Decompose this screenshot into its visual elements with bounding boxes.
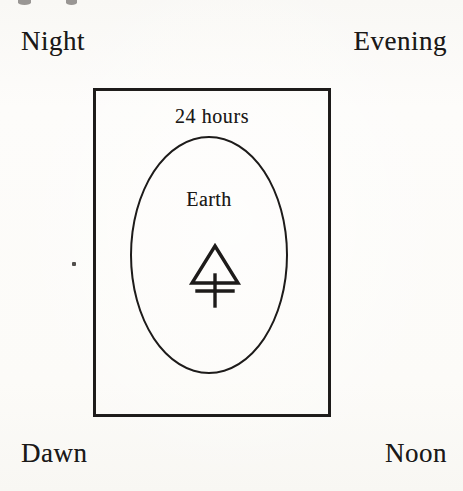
diagram-page: Night Evening Dawn Noon 24 hours Earth [0, 0, 463, 491]
period-label-24-hours: 24 hours [93, 106, 331, 126]
corner-label-night: Night [21, 28, 85, 55]
page-top-cut-artifact-b [66, 0, 77, 5]
page-top-cut-artifact-a [18, 0, 31, 5]
earth-symbol-icon [186, 241, 244, 309]
ink-speck-artifact [72, 262, 76, 266]
corner-label-noon: Noon [385, 440, 447, 467]
corner-label-evening: Evening [354, 28, 447, 55]
corner-label-dawn: Dawn [21, 440, 87, 467]
earth-label: Earth [130, 189, 288, 209]
